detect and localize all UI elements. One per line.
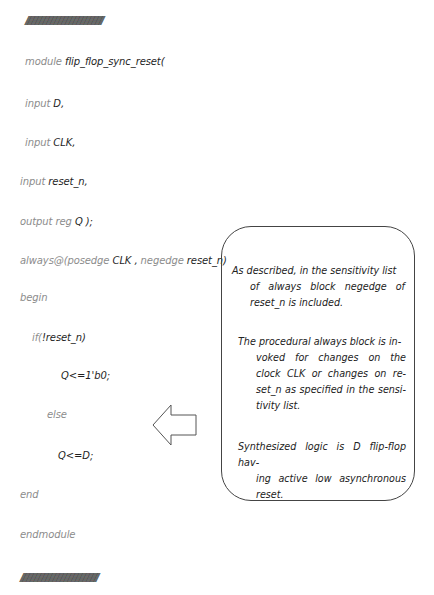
code-line-assign-reset: Q<=1'b0; [61, 370, 110, 382]
code-line-always: always@(posedge CLK , negedge reset_n) [20, 255, 227, 267]
keyword: module [25, 56, 62, 67]
identifier: !reset_n) [42, 332, 86, 343]
paragraph-rest: ing active low asynchronous reset. [256, 473, 406, 500]
code-line-if: if(!reset_n) [32, 332, 86, 344]
keyword: input [25, 137, 50, 148]
code-line-input-d: input D, [25, 98, 64, 110]
identifier: Q ); [75, 216, 93, 227]
identifier: Q<=1'b0; [61, 370, 110, 381]
keyword: end [20, 489, 39, 500]
identifier: Q<=D; [58, 450, 93, 461]
identifier: CLK , [113, 255, 138, 266]
callout-paragraph-2: The procedural always block is in- voked… [256, 334, 406, 414]
keyword: endmodule [20, 529, 75, 540]
paragraph-rest: of always block negedge of reset_n is in… [250, 281, 405, 308]
keyword: output reg [20, 216, 72, 227]
keyword: else [47, 409, 67, 420]
callout-paragraph-3: Synthesized logic is D flip-flop hav- in… [256, 439, 406, 503]
keyword: always@(posedge [20, 255, 109, 266]
keyword: begin [20, 292, 47, 303]
keyword: input [25, 98, 50, 109]
top-separator: ////////////////////////////////////////… [25, 14, 102, 26]
paragraph-first-line: As described, in the sensitivity list [232, 263, 405, 279]
paragraph-first-line: Synthesized logic is D flip-flop hav- [238, 439, 406, 471]
callout-paragraph-1: As described, in the sensitivity list of… [250, 263, 405, 311]
identifier: D, [53, 98, 64, 109]
code-line-begin: begin [20, 292, 47, 304]
code-line-module: module flip_flop_sync_reset( [25, 56, 165, 68]
keyword: negedge [141, 255, 184, 266]
identifier: CLK, [53, 137, 75, 148]
code-line-assign-d: Q<=D; [58, 450, 93, 462]
code-line-else: else [47, 409, 67, 421]
code-line-end: end [20, 489, 39, 501]
keyword: input [20, 176, 45, 187]
identifier: reset_n, [48, 176, 87, 187]
code-line-output: output reg Q ); [20, 216, 93, 228]
keyword: if( [32, 332, 42, 343]
code-line-endmodule: endmodule [20, 529, 75, 541]
left-arrow-icon [150, 402, 200, 448]
bottom-separator: ////////////////////////////////////////… [20, 571, 97, 583]
paragraph-first-line: The procedural always block is in- [238, 334, 406, 350]
identifier: flip_flop_sync_reset( [65, 56, 165, 67]
code-line-input-reset: input reset_n, [20, 176, 88, 188]
paragraph-rest: voked for changes on the clock CLK or ch… [256, 352, 406, 411]
code-line-input-clk: input CLK, [25, 137, 75, 149]
